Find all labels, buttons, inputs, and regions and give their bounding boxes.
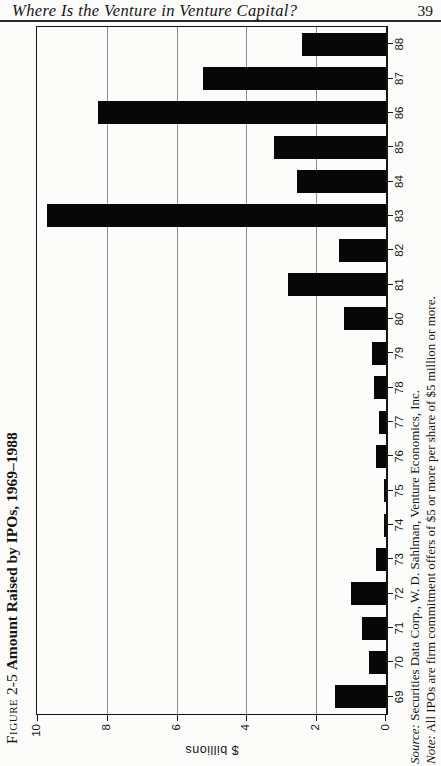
year-label-77: 77 (393, 405, 405, 439)
y-axis-tick-10 (37, 715, 38, 721)
bar-71 (362, 617, 386, 640)
year-label-80: 80 (393, 302, 405, 336)
rotated-figure-area: Figure 2-5 Amount Raised by IPOs, 1969–1… (0, 26, 441, 766)
bar-77 (379, 411, 386, 434)
figure-title: Figure 2-5 Amount Raised by IPOs, 1969–1… (3, 432, 21, 744)
bar-70 (369, 651, 386, 674)
bar-81 (288, 273, 386, 296)
y-tick-label-8: 8 (101, 724, 112, 752)
bar-87 (203, 67, 386, 90)
bar-74 (384, 514, 386, 537)
year-label-88: 88 (393, 27, 405, 61)
bar-85 (274, 136, 386, 159)
bar-83 (47, 204, 386, 227)
gridline-4 (246, 27, 247, 714)
bar-79 (372, 342, 386, 365)
year-label-87: 87 (393, 62, 405, 96)
year-label-78: 78 (393, 371, 405, 405)
year-label-85: 85 (393, 130, 405, 164)
year-label-73: 73 (393, 542, 405, 576)
gridline-6 (177, 27, 178, 714)
bar-86 (98, 101, 386, 124)
figure-number: 2-5 (3, 674, 20, 695)
year-label-79: 79 (393, 336, 405, 370)
landscape-chart: Figure 2-5 Amount Raised by IPOs, 1969–1… (0, 26, 441, 766)
bar-78 (374, 376, 386, 399)
year-label-81: 81 (393, 268, 405, 302)
year-label-74: 74 (393, 508, 405, 542)
y-tick-label-2: 2 (310, 724, 321, 752)
y-tick-label-0: 0 (380, 724, 391, 752)
note-label: Note: (423, 735, 438, 764)
y-axis-tick-0 (385, 715, 386, 721)
source-label: Source: (407, 724, 422, 764)
header-rule (0, 20, 441, 22)
y-axis-label: $ billions (185, 743, 239, 757)
gridline-8 (107, 27, 108, 714)
year-label-76: 76 (393, 439, 405, 473)
figure-title-text: Amount Raised by IPOs, 1969–1988 (3, 432, 20, 670)
bar-84 (297, 170, 386, 193)
note-text: All IPOs are firm commitment offers of $… (423, 296, 438, 735)
y-axis-label-box: $ billions (37, 742, 386, 758)
bar-80 (344, 307, 386, 330)
y-tick-label-6: 6 (171, 724, 182, 752)
year-label-72: 72 (393, 577, 405, 611)
year-label-69: 69 (393, 680, 405, 714)
note-line: Note: All IPOs are firm commitment offer… (423, 24, 439, 764)
bar-82 (339, 239, 386, 262)
gridline-2 (316, 27, 317, 714)
bar-76 (376, 445, 386, 468)
bar-72 (351, 582, 386, 605)
running-head: Where Is the Venture in Venture Capital? (12, 1, 297, 21)
bar-69 (335, 685, 386, 708)
source-text: Securities Data Corp., W. D. Sahlman, Ve… (407, 390, 422, 724)
bar-73 (376, 548, 386, 571)
year-label-84: 84 (393, 165, 405, 199)
y-axis-tick-8 (107, 715, 108, 721)
source-line: Source: Securities Data Corp., W. D. Sah… (407, 24, 423, 764)
year-label-82: 82 (393, 233, 405, 267)
book-page: Where Is the Venture in Venture Capital?… (0, 0, 441, 766)
y-axis-tick-6 (177, 715, 178, 721)
bar-88 (302, 33, 386, 56)
figure-label: Figure (3, 699, 20, 744)
year-label-75: 75 (393, 474, 405, 508)
y-axis-tick-4 (246, 715, 247, 721)
bar-75 (384, 479, 386, 502)
y-axis-tick-2 (316, 715, 317, 721)
plot-area (36, 26, 388, 715)
year-label-83: 83 (393, 199, 405, 233)
y-tick-label-10: 10 (31, 724, 42, 752)
year-label-86: 86 (393, 96, 405, 130)
y-tick-label-4: 4 (240, 724, 251, 752)
year-label-70: 70 (393, 645, 405, 679)
page-number: 39 (418, 2, 434, 20)
year-label-71: 71 (393, 611, 405, 645)
